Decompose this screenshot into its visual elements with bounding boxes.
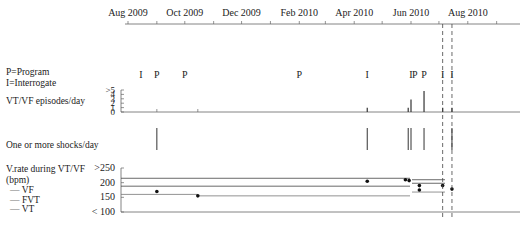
event-marker: P <box>421 69 427 80</box>
event-marker: P <box>297 69 303 80</box>
time-tick-label: Dec 2009 <box>222 7 261 18</box>
time-tick-label: Apr 2010 <box>335 7 373 18</box>
rate-point <box>418 188 422 192</box>
rate-point <box>407 179 411 183</box>
event-marker: P <box>154 69 160 80</box>
rate-point <box>196 194 200 198</box>
event-marker: I <box>139 69 142 80</box>
rate-tick: >250 <box>94 162 115 173</box>
event-marker: P <box>182 69 188 80</box>
time-tick-label: Jun 2010 <box>393 7 429 18</box>
rate-panel: < 100150200>250 <box>92 162 520 217</box>
time-axis: Aug 2009Oct 2009Dec 2009Feb 2010Apr 2010… <box>108 7 520 24</box>
episodes-tick: >5 <box>105 85 115 95</box>
time-tick-label: Oct 2009 <box>166 7 203 18</box>
rate-point <box>404 178 408 182</box>
time-tick-label: Feb 2010 <box>281 7 319 18</box>
time-tick-label: Aug 2010 <box>448 7 488 18</box>
time-tick-label: Aug 2009 <box>108 7 148 18</box>
rate-point <box>365 179 369 183</box>
rate-point <box>155 190 159 194</box>
episodes-panel: 01234>5 <box>105 85 520 117</box>
event-marker: P <box>412 69 418 80</box>
rate-tick: 150 <box>100 191 115 202</box>
event-marker: I <box>366 69 369 80</box>
rate-tick: 200 <box>100 177 115 188</box>
rate-tick: < 100 <box>92 206 115 217</box>
timeline-chart: Aug 2009Oct 2009Dec 2009Feb 2010Apr 2010… <box>0 0 527 227</box>
rate-point <box>418 184 422 188</box>
shocks-panel <box>157 128 452 150</box>
device-events: IPPPIIPPII <box>139 69 453 80</box>
